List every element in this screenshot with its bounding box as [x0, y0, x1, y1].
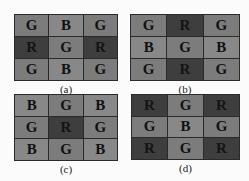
- panel-caption: (c): [14, 163, 118, 175]
- grid-cell: G: [132, 117, 167, 138]
- panel-caption: (d): [131, 162, 240, 174]
- grid-cell: B: [49, 15, 82, 36]
- grid-cell: G: [204, 117, 239, 138]
- grid-cell: G: [167, 37, 202, 58]
- grid-cell: B: [49, 59, 82, 80]
- grid-cell: R: [132, 138, 167, 159]
- panel-a: GBGRGRGBG(a): [14, 14, 118, 97]
- grid-cell: R: [84, 37, 117, 58]
- grid-cell: G: [204, 15, 239, 36]
- grid-cell: R: [204, 138, 239, 159]
- grid-cell: G: [204, 59, 239, 80]
- grid-cell: G: [15, 15, 48, 36]
- grid-cell: G: [84, 117, 117, 138]
- cfa-grid: RGRGBGRGR: [131, 94, 240, 160]
- grid-cell: R: [132, 95, 167, 116]
- grid-cell: R: [167, 15, 202, 36]
- grid-cell: G: [15, 59, 48, 80]
- grid-cell: G: [49, 37, 82, 58]
- grid-cell: R: [167, 59, 202, 80]
- grid-cell: G: [168, 95, 203, 116]
- cfa-grid: GRGBGBGRG: [130, 14, 240, 81]
- grid-cell: G: [49, 139, 82, 160]
- grid-cell: R: [204, 95, 239, 116]
- grid-cell: B: [15, 139, 48, 160]
- grid-cell: R: [49, 117, 82, 138]
- grid-cell: B: [84, 139, 117, 160]
- grid-cell: B: [168, 117, 203, 138]
- grid-cell: R: [15, 37, 48, 58]
- cfa-grid: GBGRGRGBG: [14, 14, 118, 81]
- grid-cell: G: [15, 117, 48, 138]
- grid-cell: G: [84, 15, 117, 36]
- grid-cell: B: [204, 37, 239, 58]
- panel-c: BGBGRGBGB(c): [14, 94, 118, 177]
- grid-cell: G: [49, 95, 82, 116]
- grid-cell: G: [84, 59, 117, 80]
- panel-d: RGRGBGRGR(d): [131, 94, 240, 176]
- grid-cell: G: [131, 59, 166, 80]
- grid-cell: B: [131, 37, 166, 58]
- grid-cell: B: [15, 95, 48, 116]
- panel-b: GRGBGBGRG(b): [130, 14, 240, 97]
- grid-cell: G: [131, 15, 166, 36]
- cfa-grid: BGBGRGBGB: [14, 94, 118, 161]
- grid-cell: B: [84, 95, 117, 116]
- grid-cell: G: [168, 138, 203, 159]
